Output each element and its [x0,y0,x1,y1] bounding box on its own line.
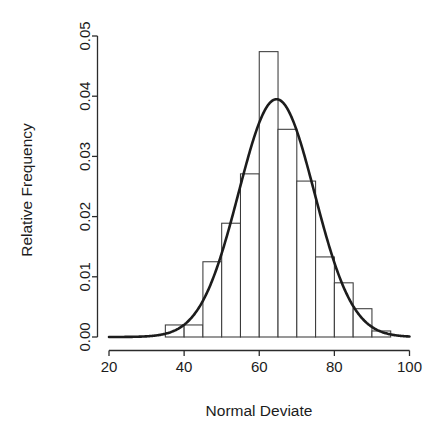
x-axis-title: Normal Deviate [206,402,313,419]
x-axis-tick-label: 80 [326,358,343,375]
histogram-bar [353,309,372,337]
y-axis-tick-label: 0.00 [76,322,93,351]
histogram-bar [334,283,353,337]
x-axis [109,351,410,357]
chart-figure: 0.000.010.020.030.040.05 20406080100 Rel… [0,0,446,445]
histogram-bar [203,262,222,337]
histogram-plot: 0.000.010.020.030.040.05 20406080100 Rel… [0,0,446,445]
histogram-bar [240,174,259,337]
histogram-bar [184,325,203,337]
x-axis-tick-labels: 20406080100 [101,358,422,375]
y-axis-tick-label: 0.05 [76,21,93,50]
x-axis-tick-label: 40 [176,358,193,375]
y-axis-tick-labels: 0.000.010.020.030.040.05 [76,21,93,351]
y-axis-tick-label: 0.01 [76,262,93,291]
x-axis-tick-label: 60 [251,358,268,375]
y-axis-title: Relative Frequency [18,123,35,257]
histogram-bar [278,129,297,337]
y-axis-tick-label: 0.03 [76,142,93,171]
histogram-bars [165,52,390,337]
x-axis-tick-label: 100 [397,358,422,375]
y-axis-tick-label: 0.04 [76,82,93,111]
histogram-bar [259,52,278,337]
y-axis-tick-label: 0.02 [76,202,93,231]
histogram-bar [297,181,316,337]
histogram-bar [316,257,335,337]
x-axis-tick-label: 20 [101,358,118,375]
